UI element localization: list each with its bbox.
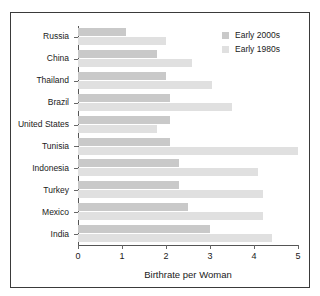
legend-item-early-1980s[interactable]: Early 1980s — [222, 42, 280, 56]
bar-group-indonesia — [78, 157, 298, 179]
category-label-united-states: United States — [0, 119, 69, 129]
category-label-mexico: Mexico — [0, 207, 69, 217]
legend-swatch-early-2000s — [222, 32, 229, 39]
x-tick-label-4: 4 — [244, 251, 264, 262]
bar-thailand-early-1980s[interactable] — [78, 81, 212, 89]
category-label-indonesia: Indonesia — [0, 163, 69, 173]
bar-group-mexico — [78, 201, 298, 223]
category-label-tunisia: Tunisia — [0, 141, 69, 151]
category-label-russia: Russia — [0, 31, 69, 41]
category-label-china: China — [0, 53, 69, 63]
x-tick-label-5: 5 — [288, 251, 308, 262]
legend-swatch-early-1980s — [222, 46, 229, 53]
category-label-india: India — [0, 229, 69, 239]
bar-group-thailand — [78, 70, 298, 92]
bar-india-early-1980s[interactable] — [78, 234, 272, 242]
x-tick-1 — [122, 245, 123, 249]
x-tick-label-1: 1 — [112, 251, 132, 262]
bar-mexico-early-2000s[interactable] — [78, 203, 188, 211]
bar-indonesia-early-2000s[interactable] — [78, 159, 179, 167]
legend-item-early-2000s[interactable]: Early 2000s — [222, 28, 280, 42]
bar-tunisia-early-2000s[interactable] — [78, 138, 170, 146]
legend-label-early-1980s: Early 1980s — [235, 44, 280, 54]
bar-china-early-2000s[interactable] — [78, 50, 157, 58]
bar-thailand-early-2000s[interactable] — [78, 72, 166, 80]
bar-group-india — [78, 223, 298, 245]
x-tick-3 — [210, 245, 211, 249]
x-tick-label-3: 3 — [200, 251, 220, 262]
bar-india-early-2000s[interactable] — [78, 225, 210, 233]
x-tick-2 — [166, 245, 167, 249]
bar-china-early-1980s[interactable] — [78, 59, 192, 67]
bar-united-states-early-2000s[interactable] — [78, 116, 170, 124]
bar-mexico-early-1980s[interactable] — [78, 212, 263, 220]
bar-group-tunisia — [78, 136, 298, 158]
category-label-thailand: Thailand — [0, 75, 69, 85]
x-tick-0 — [78, 245, 79, 249]
x-tick-4 — [254, 245, 255, 249]
x-tick-5 — [298, 245, 299, 249]
bar-group-turkey — [78, 179, 298, 201]
category-label-brazil: Brazil — [0, 97, 69, 107]
bar-brazil-early-2000s[interactable] — [78, 94, 170, 102]
bar-indonesia-early-1980s[interactable] — [78, 168, 258, 176]
legend-label-early-2000s: Early 2000s — [235, 30, 280, 40]
chart-figure: RussiaChinaThailandBrazilUnited StatesTu… — [0, 0, 320, 296]
bar-united-states-early-1980s[interactable] — [78, 125, 157, 133]
category-label-turkey: Turkey — [0, 185, 69, 195]
bar-russia-early-2000s[interactable] — [78, 28, 126, 36]
bar-group-united-states — [78, 114, 298, 136]
bar-turkey-early-2000s[interactable] — [78, 181, 179, 189]
x-axis-title: Birthrate per Woman — [78, 269, 298, 280]
bar-group-brazil — [78, 92, 298, 114]
x-tick-label-2: 2 — [156, 251, 176, 262]
chart-legend: Early 2000s Early 1980s — [222, 28, 280, 56]
bar-brazil-early-1980s[interactable] — [78, 103, 232, 111]
x-tick-label-0: 0 — [68, 251, 88, 262]
bar-russia-early-1980s[interactable] — [78, 37, 166, 45]
bar-turkey-early-1980s[interactable] — [78, 190, 263, 198]
value-axis-line — [78, 245, 299, 246]
bar-tunisia-early-1980s[interactable] — [78, 147, 298, 155]
